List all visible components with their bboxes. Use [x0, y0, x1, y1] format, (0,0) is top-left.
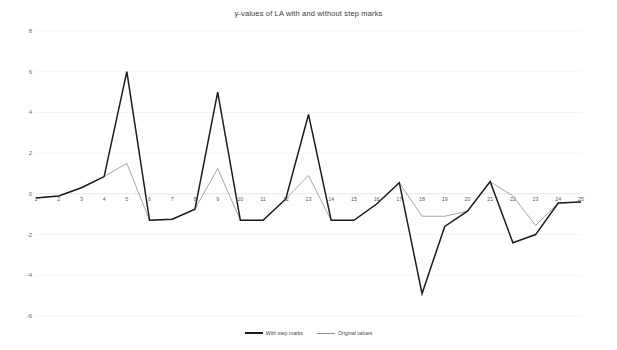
- gridlines: [36, 31, 581, 316]
- legend-item-original-values[interactable]: Original values: [317, 330, 372, 336]
- legend-label: With step marks: [266, 330, 303, 336]
- series-line-original-values: [36, 163, 581, 225]
- legend-item-with-step-marks[interactable]: With step marks: [245, 330, 303, 336]
- chart-legend: With step marksOriginal values: [0, 330, 617, 336]
- y-axis-tick-label: 2: [14, 150, 32, 156]
- y-axis-tick-label: 4: [14, 109, 32, 115]
- y-axis-tick-label: 8: [14, 28, 32, 34]
- legend-swatch-icon: [317, 333, 335, 334]
- y-axis-tick-label: -6: [14, 313, 32, 319]
- y-axis-tick-label: 6: [14, 69, 32, 75]
- legend-swatch-icon: [245, 332, 263, 334]
- y-axis-tick-label: 0: [14, 191, 32, 197]
- series-lines: [36, 72, 581, 294]
- y-axis-tick-label: -4: [14, 272, 32, 278]
- plot-area: [36, 31, 581, 316]
- y-axis-tick-label: -2: [14, 232, 32, 238]
- series-line-with-step-marks: [36, 72, 581, 294]
- chart-container: y-values of LA with and without step mar…: [0, 0, 617, 350]
- chart-title: y-values of LA with and without step mar…: [0, 9, 617, 18]
- chart-svg: [36, 31, 581, 316]
- legend-label: Original values: [338, 330, 372, 336]
